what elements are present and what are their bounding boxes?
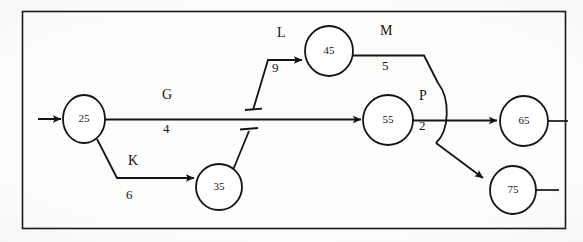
activity-P-name: P xyxy=(419,89,427,103)
node-25-label: 25 xyxy=(79,113,90,124)
line-hop-over-P xyxy=(436,83,447,143)
activity-L-duration: 9 xyxy=(272,61,279,74)
edge-M-45-to-75-part1 xyxy=(353,56,438,84)
node-75-label: 75 xyxy=(508,184,519,195)
node-55-label: 55 xyxy=(383,114,394,125)
node-65-label: 65 xyxy=(519,115,530,126)
activity-M-duration: 5 xyxy=(382,59,389,72)
node-35-label: 35 xyxy=(214,181,225,192)
activity-G-duration: 4 xyxy=(163,122,170,135)
activity-P-duration: 2 xyxy=(419,119,426,132)
edge-M-45-to-75-part2 xyxy=(436,143,483,178)
activity-K-duration: 6 xyxy=(126,188,133,201)
dummy-terminator-tick-lower xyxy=(240,128,258,130)
activity-L-name: L xyxy=(277,26,286,40)
activity-K-name: K xyxy=(128,154,138,168)
edge-K-25-to-35 xyxy=(97,139,194,178)
dummy-terminator-tick-upper xyxy=(245,109,262,110)
activity-M-name: M xyxy=(380,24,392,38)
edge-dummy-35-to-G xyxy=(233,131,249,170)
activity-G-name: G xyxy=(162,88,172,102)
node-45-label: 45 xyxy=(324,45,335,56)
